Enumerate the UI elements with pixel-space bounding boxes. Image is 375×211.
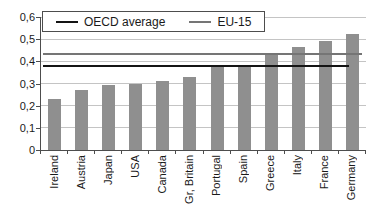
x-tick-label: Greece	[264, 155, 276, 191]
x-tick-label: Germany	[345, 155, 357, 200]
bar	[102, 85, 115, 150]
y-tick-label: 0,5	[0, 34, 35, 45]
x-tick	[257, 151, 258, 154]
bar-slot-austria	[68, 17, 95, 150]
x-tick	[148, 151, 149, 154]
bar	[265, 54, 278, 150]
x-tick-label: Ireland	[48, 155, 60, 189]
bar	[48, 99, 61, 150]
x-label-slot: Canada	[148, 155, 175, 211]
y-tick-label: 0,3	[0, 79, 35, 90]
x-label-slot: Ireland	[40, 155, 67, 211]
bar-slot-germany	[339, 17, 366, 150]
x-tick	[365, 151, 366, 154]
x-label-slot: Germany	[338, 155, 365, 211]
bar-slot-usa	[122, 17, 149, 150]
legend: OECD average EU-15	[42, 11, 265, 32]
y-tick-label: 0	[0, 145, 35, 156]
x-tick	[67, 151, 68, 154]
bar-slot-france	[312, 17, 339, 150]
bar	[292, 47, 305, 150]
plot-area	[40, 17, 366, 151]
x-tick	[121, 151, 122, 154]
x-label-slot: Austria	[67, 155, 94, 211]
x-axis-labels: IrelandAustriaJapanUSACanadaGr, BritainP…	[40, 155, 365, 211]
x-tick-label: Spain	[237, 155, 249, 183]
bars-container	[41, 17, 366, 150]
bar-slot-greece	[258, 17, 285, 150]
bar-slot-ireland	[41, 17, 68, 150]
x-tick-label: France	[318, 155, 330, 189]
x-tick	[94, 151, 95, 154]
y-tick	[36, 84, 40, 85]
bar	[238, 67, 251, 150]
x-tick-label: USA	[129, 155, 141, 178]
legend-label-oecd-average: OECD average	[84, 15, 165, 29]
bar	[183, 77, 196, 150]
bar-slot-gr-britain	[176, 17, 203, 150]
x-tick	[175, 151, 176, 154]
bar	[129, 84, 142, 151]
y-tick	[36, 61, 40, 62]
bar-slot-spain	[231, 17, 258, 150]
bar-slot-italy	[285, 17, 312, 150]
legend-item-oecd-average: OECD average	[56, 15, 165, 29]
x-label-slot: Greece	[257, 155, 284, 211]
x-tick-label: Japan	[102, 155, 114, 185]
eu15-reference-line	[43, 53, 362, 55]
x-label-slot: France	[311, 155, 338, 211]
x-tick-label: Italy	[291, 155, 303, 175]
bar-chart: 00,10,20,30,40,50,6 IrelandAustriaJapanU…	[0, 0, 375, 211]
bar	[156, 81, 169, 150]
y-tick-label: 0,6	[0, 12, 35, 23]
bar	[211, 67, 224, 150]
bar	[346, 34, 359, 150]
bar-slot-portugal	[203, 17, 230, 150]
x-tick-label: Gr, Britain	[183, 155, 195, 204]
y-tick-label: 0,2	[0, 101, 35, 112]
x-tick-label: Austria	[75, 155, 87, 189]
x-tick	[230, 151, 231, 154]
x-label-slot: Spain	[230, 155, 257, 211]
bar-slot-canada	[149, 17, 176, 150]
legend-item-eu15: EU-15	[189, 15, 251, 29]
x-label-slot: Italy	[284, 155, 311, 211]
x-tick	[311, 151, 312, 154]
eu15-line-sample	[189, 21, 211, 23]
x-tick-label: Canada	[156, 155, 168, 194]
y-tick-label: 0,4	[0, 56, 35, 67]
x-tick-label: Portugal	[210, 155, 222, 196]
x-tick	[40, 151, 41, 154]
x-label-slot: Gr, Britain	[175, 155, 202, 211]
bar	[319, 41, 332, 150]
y-tick	[36, 128, 40, 129]
oecd-average-line-sample	[56, 21, 78, 23]
y-tick	[36, 106, 40, 107]
x-tick	[284, 151, 285, 154]
y-tick	[36, 17, 40, 18]
x-tick	[203, 151, 204, 154]
x-label-slot: Japan	[94, 155, 121, 211]
bar-slot-japan	[95, 17, 122, 150]
x-label-slot: USA	[121, 155, 148, 211]
y-axis-ticks	[36, 17, 40, 151]
y-tick	[36, 39, 40, 40]
x-label-slot: Portugal	[202, 155, 229, 211]
oecd-average-reference-line	[43, 65, 349, 67]
y-axis-labels: 00,10,20,30,40,50,6	[0, 17, 35, 150]
y-tick-label: 0,1	[0, 123, 35, 134]
bar	[75, 90, 88, 150]
legend-label-eu15: EU-15	[217, 15, 251, 29]
x-tick	[338, 151, 339, 154]
